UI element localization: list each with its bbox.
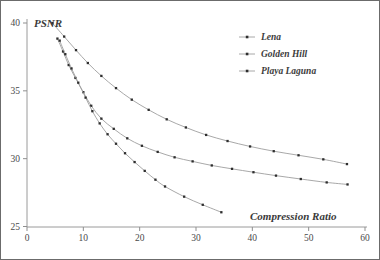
data-point-marker [91,110,93,112]
data-point-marker [346,163,348,165]
data-point-marker [173,156,175,158]
data-point-marker [64,53,66,55]
series-line [52,23,347,164]
x-tick-label: 30 [191,233,201,243]
legend-item-playa-laguna: Playa Laguna [239,66,316,76]
x-tick-label: 40 [248,233,258,243]
data-point-marker [100,75,102,77]
data-point-marker [346,183,348,185]
data-point-marker [205,134,207,136]
legend-label: Golden Hill [261,49,308,59]
y-tick-label: 25 [11,222,21,232]
data-point-marker [211,164,213,166]
y-tick-label: 30 [11,154,21,164]
x-tick-label: 20 [135,233,145,243]
y-tick-label: 40 [11,18,21,28]
data-point-marker [99,122,101,124]
data-point-marker [191,160,193,162]
data-point-marker [113,128,115,130]
data-point-marker [63,35,65,37]
legend-marker [246,53,249,56]
data-point-marker [100,117,102,119]
data-point-marker [77,82,79,84]
data-point-marker [183,196,185,198]
x-axis-ticks: 0102030405060 [25,227,370,243]
data-point-marker [252,171,254,173]
y-axis-ticks: 25303540 [11,18,28,232]
data-point-marker [106,133,108,135]
chart-legend: LenaGolden HillPlaya Laguna [239,32,316,76]
data-point-marker [166,118,168,120]
data-point-marker [326,181,328,183]
data-point-marker [115,87,117,89]
data-point-marker [300,178,302,180]
data-point-marker [126,137,128,139]
legend-item-lena: Lena [239,32,281,42]
data-point-marker [124,152,126,154]
data-point-marker [141,145,143,147]
y-tick-label: 35 [11,86,21,96]
data-point-marker [185,126,187,128]
figure-container: 0102030405060 25303540 PSNR Compression … [0,0,380,260]
data-point-marker [297,154,299,156]
legend-marker [246,70,249,73]
x-tick-label: 50 [304,233,314,243]
data-point-marker [144,170,146,172]
data-point-marker [220,211,222,213]
data-point-marker [56,37,58,39]
axes-group [27,19,367,227]
data-point-marker [87,62,89,64]
legend-item-golden-hill: Golden Hill [239,49,308,59]
data-point-marker [115,143,117,145]
series-lena [51,22,348,165]
x-axis-title: Compression Ratio [250,210,337,222]
y-axis-title: PSNR [34,17,62,29]
series-golden-hill [56,37,348,185]
data-point-marker [131,99,133,101]
data-point-marker [84,96,86,98]
data-point-marker [275,174,277,176]
x-tick-label: 0 [25,233,30,243]
data-point-marker [202,204,204,206]
data-point-marker [133,161,135,163]
data-point-marker [59,39,61,41]
data-point-marker [75,49,77,51]
data-point-marker [154,179,156,181]
data-point-marker [157,151,159,153]
x-tick-label: 60 [360,233,370,243]
legend-marker [246,36,249,39]
data-point-marker [70,67,72,69]
series-line [57,39,347,185]
psnr-vs-compression-ratio-chart: 0102030405060 25303540 PSNR Compression … [1,1,380,260]
legend-label: Playa Laguna [261,66,316,76]
data-point-marker [164,185,166,187]
data-point-marker [249,145,251,147]
series-line [60,41,222,213]
data-point-marker [226,140,228,142]
data-point-marker [273,150,275,152]
data-point-marker [231,168,233,170]
series-playa-laguna [59,39,223,213]
data-point-marker [322,158,324,160]
legend-label: Lena [260,32,281,42]
data-point-marker [148,109,150,111]
x-tick-label: 10 [79,233,89,243]
